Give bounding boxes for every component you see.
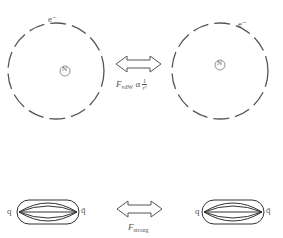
right-nucleus-label: N — [217, 59, 222, 67]
left-electron-label: e⁻ — [48, 14, 57, 24]
strong-double-arrow-icon — [117, 201, 162, 217]
left-quark-label: q — [7, 206, 12, 216]
left-antiquark-label: q̄ — [81, 205, 86, 215]
diagram-canvas — [0, 0, 283, 238]
right-quark-label: q — [195, 206, 200, 216]
right-antiquark-label: q̄ — [266, 205, 271, 215]
vdw-double-arrow-icon — [116, 56, 161, 72]
left-electron-orbit — [8, 23, 104, 119]
right-electron-orbit — [172, 23, 268, 119]
right-electron-label: e⁻ — [238, 19, 247, 29]
right-meson-flux-tube — [202, 200, 264, 224]
left-meson-flux-tube — [17, 200, 79, 224]
left-nucleus-label: N — [62, 65, 67, 73]
vdw-force-label: FvdW α 1 r⁷ — [116, 78, 147, 91]
strong-force-label: Fstrong — [128, 222, 149, 233]
